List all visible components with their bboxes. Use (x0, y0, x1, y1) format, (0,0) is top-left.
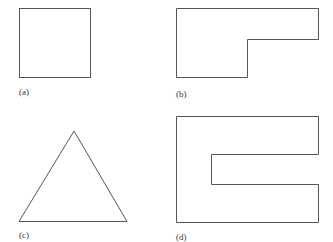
figure-canvas: (a) (b) (c) (d) (0, 0, 333, 242)
triangle-shape (19, 131, 127, 222)
panel-label-a: (a) (19, 87, 29, 97)
panel-d: (d) (176, 117, 319, 242)
panel-label-b: (b) (176, 89, 187, 99)
square-shape (20, 9, 91, 78)
l-shape (177, 9, 319, 78)
c-shape (177, 117, 319, 223)
panel-label-d: (d) (176, 232, 187, 242)
panel-b: (b) (176, 9, 319, 100)
panel-a: (a) (19, 9, 91, 98)
panel-c: (c) (19, 131, 127, 240)
panel-label-c: (c) (19, 230, 29, 240)
